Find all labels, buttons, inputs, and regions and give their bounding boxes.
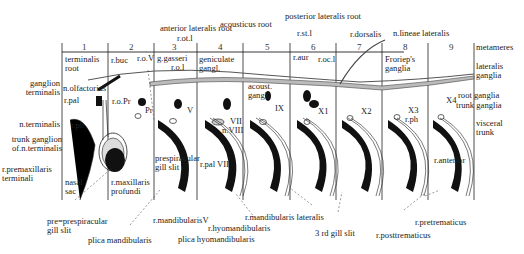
label-geniculate-gangl: geniculategangl.: [199, 55, 234, 73]
label-acousticus-root: acousticus root: [220, 20, 272, 29]
label-3rd-gill-slit: 3 rd gill slit: [315, 229, 355, 238]
label-r-ot-l: r.ot.l: [177, 34, 193, 43]
label-X4: X4: [446, 96, 457, 105]
ganglia: [138, 90, 319, 110]
label-V: V: [187, 106, 193, 115]
label-n-terminalis: n.terminalis: [2, 120, 60, 129]
label-r-dorsalis: r.dorsalis: [350, 30, 381, 39]
X1-ganglion: [303, 90, 311, 102]
label-nasal-sac: nasalsac: [65, 178, 83, 196]
label-r-posttrematicus: r.posttrematicus: [376, 231, 431, 240]
gill-slits: [158, 120, 462, 192]
lateralis-nerve-trunk: [88, 40, 474, 90]
label-visceral-trunk: visceraltrunk: [476, 119, 503, 137]
label-r-pal: r.pal: [64, 96, 79, 105]
metamere-number: 4: [218, 42, 223, 52]
metamere-number: 8: [403, 42, 408, 52]
label-frorieps-ganglia: Froriep'sganglia: [385, 55, 415, 73]
label-pre-prespiracular-gill-slit: pre=prespiraculargill slit: [47, 217, 108, 235]
label-plica-hyomandibularis: plica hyomandibularis: [178, 235, 255, 244]
label-r-pretrematicus: r.pretrematicus: [415, 218, 466, 227]
metameres-label: metameres: [476, 43, 513, 52]
label-r-mandibularis-lateralis: r.mandibularis lateralis: [245, 213, 324, 222]
label-posterior-lateralis-root: posterior lateralis root: [285, 12, 361, 21]
label-root-ganglia: root ganglia: [458, 91, 499, 100]
metamere-number: 3: [172, 42, 177, 52]
label-r-pal-VII: r.pal VII: [200, 160, 229, 169]
label-trunk-ganglia: trunk ganglia: [456, 101, 502, 110]
label-r-o-V: r.o.V: [137, 54, 154, 63]
label-r-o-Pr: r.o.Pr: [112, 97, 131, 106]
label-r-hyomandibularis: r.hyomandibularis: [208, 224, 270, 233]
label-plica-mandibularis: plica mandibularis: [88, 236, 152, 245]
metamere-number: 9: [449, 42, 454, 52]
label-prespiracular-gill-slit: prespiraculargill slit: [155, 154, 200, 172]
label-IX: IX: [275, 104, 284, 113]
label-Pr: Pr: [145, 106, 153, 115]
label-n-VIII: n.VIII: [222, 126, 243, 135]
label-acoust-gangl: acoust.gangl.: [248, 82, 272, 100]
label-lateralis-ganglia: lateralisganglia: [476, 62, 503, 80]
label-r-o-l: r.o.l: [171, 63, 184, 72]
label-r-anterior: r.anterior: [434, 156, 465, 165]
label-trunk-ganglion-n-terminalis: trunk ganglionof.n.terminalis: [2, 135, 62, 153]
metamere-number: 2: [129, 42, 134, 52]
label-ganglion-terminalis: ganglionterminalis: [2, 79, 60, 97]
label-r-mandibularis-V: r.mandibularisV: [153, 216, 209, 225]
label-r-aur: r.aur: [293, 53, 309, 62]
VII-ganglion: [223, 98, 231, 110]
metamere-number: 7: [357, 42, 362, 52]
label-r-ph: r.ph: [71, 121, 84, 130]
label-terminalis-root: terminalisroot: [65, 55, 99, 73]
label-X3-r-ph: r.ph: [405, 115, 418, 124]
small-ganglia: [135, 114, 444, 126]
label-r-premaxillaris-terminali: r.premaxillaristerminali: [2, 165, 52, 183]
label-X2: X2: [361, 107, 372, 116]
metamere-number: 6: [311, 42, 316, 52]
label-n-olfactorius: n.olfactorius: [63, 84, 106, 93]
label-r-st-l: r.st.l: [297, 29, 312, 38]
metamere-number: 5: [265, 42, 270, 52]
label-r-maxillaris-profundi: r.maxillarisprofundi: [111, 178, 150, 196]
label-X1: X1: [318, 107, 329, 116]
label-n-lineae-lateralis: n.lineae lateralis: [393, 29, 449, 38]
label-r-buc: r.buc: [111, 56, 128, 65]
label-r-oc-l: r.oc.l: [318, 55, 335, 64]
V-ganglion: [174, 99, 182, 109]
metamere-number: 1: [82, 42, 87, 52]
